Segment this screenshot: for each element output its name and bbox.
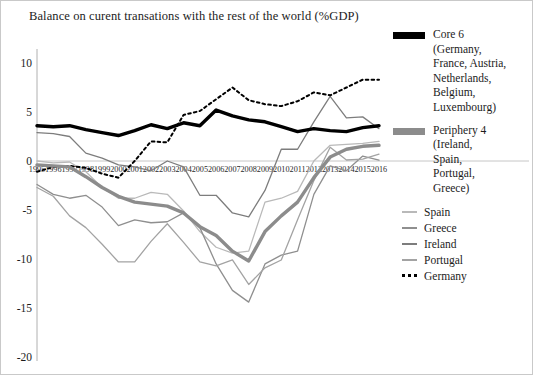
legend-item-spain: Spain xyxy=(393,204,531,220)
y-tick-label: -15 xyxy=(17,302,33,314)
legend-label-ireland: Ireland xyxy=(424,236,457,252)
x-tick-label: 2010 xyxy=(273,165,289,174)
legend-periphery4-line-4: Portugal, xyxy=(433,166,531,181)
legend-core6-line-2: (Germany, xyxy=(433,42,531,57)
legend-group-periphery4: Periphery 4 (Ireland, Spain, Portugal, G… xyxy=(393,123,531,196)
series-line-periphery-4 xyxy=(37,145,379,261)
legend-label-periphery4: Periphery 4 (Ireland, Spain, Portugal, G… xyxy=(433,123,531,196)
legend-swatch-germany-dotted-icon xyxy=(402,268,417,284)
legend-label-germany: Germany xyxy=(424,268,467,284)
y-tick-label: -5 xyxy=(22,204,32,216)
x-tick-label: 2003 xyxy=(159,165,175,174)
legend-item-ireland: Ireland xyxy=(393,236,531,252)
x-tick-label: 2008 xyxy=(241,165,257,174)
chart-figure: Balance on curent transations with the r… xyxy=(0,0,533,375)
series-line-core-6 xyxy=(37,110,379,135)
legend-core6-line-1: Core 6 xyxy=(433,27,531,42)
x-tick-label: 2006 xyxy=(208,165,224,174)
y-tick-label: 5 xyxy=(26,106,32,118)
x-tick-label: 2005 xyxy=(192,165,208,174)
x-tick-label: 2015 xyxy=(355,165,371,174)
legend-core6-line-6: Luxembourg) xyxy=(433,100,531,115)
x-tick-label: 2011 xyxy=(290,165,306,174)
legend-swatch-periphery4-icon xyxy=(393,128,425,135)
x-tick-label: 2007 xyxy=(224,165,240,174)
legend-periphery4-line-3: Spain, xyxy=(433,152,531,167)
legend-periphery4-line-2: (Ireland, xyxy=(433,137,531,152)
legend-group-core6: Core 6 (Germany, France, Austria, Nether… xyxy=(393,27,531,115)
x-tick-label: 2000 xyxy=(110,165,126,174)
legend-swatch-ireland-icon xyxy=(402,243,417,245)
legend-item-germany: Germany xyxy=(393,268,531,284)
legend-items: Spain Greece Ireland Portugal Germany xyxy=(393,204,531,284)
legend-swatch-core6-icon xyxy=(393,32,425,39)
legend-core6-line-3: France, Austria, xyxy=(433,56,531,71)
legend-swatch-greece-icon xyxy=(402,227,417,229)
legend-label-greece: Greece xyxy=(424,220,457,236)
y-tick-label: -10 xyxy=(17,253,33,265)
legend-periphery4-line-5: Greece) xyxy=(433,181,531,196)
x-tick-label: 2009 xyxy=(257,165,273,174)
legend-periphery4-line-1: Periphery 4 xyxy=(433,123,531,138)
legend-item-portugal: Portugal xyxy=(393,252,531,268)
chart-legend: Core 6 (Germany, France, Austria, Nether… xyxy=(393,27,531,284)
series-line-ireland xyxy=(37,96,379,217)
y-tick-label: 10 xyxy=(21,57,33,69)
legend-label-spain: Spain xyxy=(424,204,450,220)
legend-item-greece: Greece xyxy=(393,220,531,236)
y-tick-label: -20 xyxy=(17,351,33,363)
legend-label-core6: Core 6 (Germany, France, Austria, Nether… xyxy=(433,27,531,115)
legend-swatch-portugal-icon xyxy=(402,259,417,261)
legend-swatch-spain-icon xyxy=(402,211,417,213)
legend-label-portugal: Portugal xyxy=(424,252,463,268)
legend-core6-line-5: Belgium, xyxy=(433,85,531,100)
legend-core6-line-4: Netherlands, xyxy=(433,71,531,86)
x-tick-label: 2016 xyxy=(371,165,387,174)
x-tick-label: 1999 xyxy=(94,165,110,174)
